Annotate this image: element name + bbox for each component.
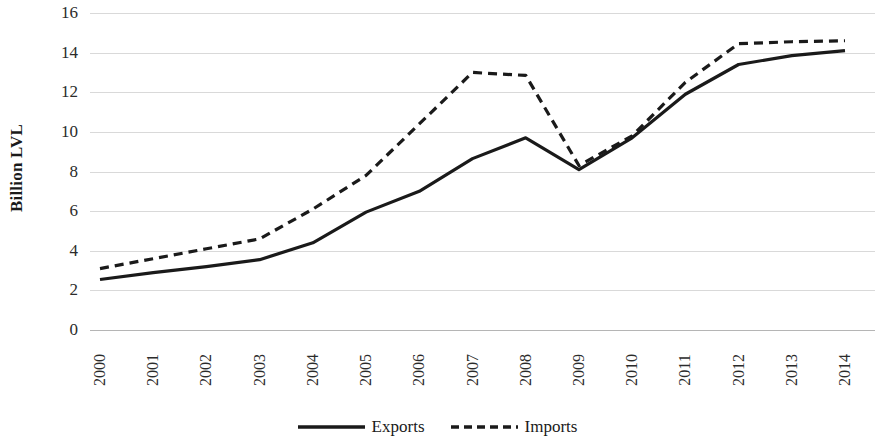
x-axis-tick-label: 2014 (836, 335, 854, 405)
x-axis-tick-label-text: 2006 (410, 354, 428, 386)
x-axis-tick-label: 2006 (410, 335, 428, 405)
x-axis-tick-labels: 2000200120022003200420052006200720082009… (90, 331, 875, 409)
y-axis-tick-label: 0 (70, 320, 79, 340)
x-axis-tick-label: 2001 (144, 335, 162, 405)
x-axis-tick-label: 2010 (623, 335, 641, 405)
y-axis-tick-label: 10 (61, 122, 78, 142)
x-axis-tick-label: 2009 (570, 335, 588, 405)
legend-swatch-solid-line-icon (298, 420, 365, 434)
series-line-exports (100, 51, 845, 280)
x-axis-tick-label: 2007 (464, 335, 482, 405)
x-axis-tick-label-text: 2012 (730, 354, 748, 386)
x-axis-tick-label: 2005 (357, 335, 375, 405)
x-axis-tick-label: 2002 (197, 335, 215, 405)
x-axis-tick-label-text: 2011 (676, 354, 694, 385)
legend-entry-exports[interactable]: Exports (298, 417, 425, 437)
y-axis-tick-labels: 1614121086420 (34, 0, 90, 340)
line-chart: Billion LVL 1614121086420 20002001200220… (0, 0, 875, 446)
plot-area (90, 0, 875, 331)
x-axis-tick-label-text: 2001 (144, 354, 162, 386)
x-axis-tick-label-text: 2010 (623, 354, 641, 386)
x-axis-tick-label-text: 2008 (517, 354, 535, 386)
x-axis-tick-label-text: 2004 (304, 354, 322, 386)
x-axis-tick-label-text: 2005 (357, 354, 375, 386)
series-line-imports (100, 41, 845, 269)
chart-legend: ExportsImports (0, 408, 875, 446)
x-axis-tick-label-text: 2000 (91, 354, 109, 386)
legend-entry-imports[interactable]: Imports (451, 417, 578, 437)
x-axis-tick-label: 2008 (517, 335, 535, 405)
y-axis-tick-label: 16 (61, 3, 78, 23)
x-axis-tick-label: 2004 (304, 335, 322, 405)
series-layer (90, 0, 875, 331)
y-axis-title: Billion LVL (0, 0, 34, 335)
legend-swatch-dashed-line-icon (451, 420, 518, 434)
x-axis-tick-label: 2012 (730, 335, 748, 405)
x-axis-tick-label-text: 2007 (464, 354, 482, 386)
x-axis-tick-label: 2013 (783, 335, 801, 405)
y-axis-tick-label: 12 (61, 82, 78, 102)
y-axis-tick-label: 2 (70, 280, 79, 300)
legend-label: Imports (525, 417, 578, 437)
x-axis-tick-label: 2000 (91, 335, 109, 405)
x-axis-tick-label-text: 2013 (783, 354, 801, 386)
x-axis-tick-label-text: 2002 (197, 354, 215, 386)
y-axis-tick-label: 6 (70, 201, 79, 221)
x-axis-tick-label: 2011 (676, 335, 694, 405)
y-axis-tick-label: 14 (61, 43, 78, 63)
y-axis-title-label: Billion LVL (7, 123, 27, 211)
x-axis-tick-label: 2003 (251, 335, 269, 405)
y-axis-tick-label: 8 (70, 162, 79, 182)
x-axis-tick-label-text: 2003 (251, 354, 269, 386)
y-axis-tick-label: 4 (70, 241, 79, 261)
x-axis-tick-label-text: 2009 (570, 354, 588, 386)
legend-label: Exports (372, 417, 425, 437)
x-axis-tick-label-text: 2014 (836, 354, 854, 386)
